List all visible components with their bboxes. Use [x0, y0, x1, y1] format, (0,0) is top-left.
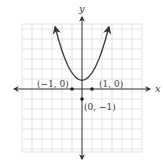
y-axis-label: y: [78, 3, 85, 14]
coordinate-plane: x y (−1, 0) (1, 0) (0, −1): [0, 0, 165, 162]
left-intercept-point: [70, 87, 74, 91]
vertex-label: (0, −1): [84, 102, 116, 112]
right-intercept-point: [90, 87, 94, 91]
vertex-point: [80, 97, 84, 101]
left-intercept-label: (−1, 0): [37, 79, 69, 89]
x-axis-label: x: [155, 83, 161, 94]
right-intercept-label: (1, 0): [99, 79, 123, 89]
